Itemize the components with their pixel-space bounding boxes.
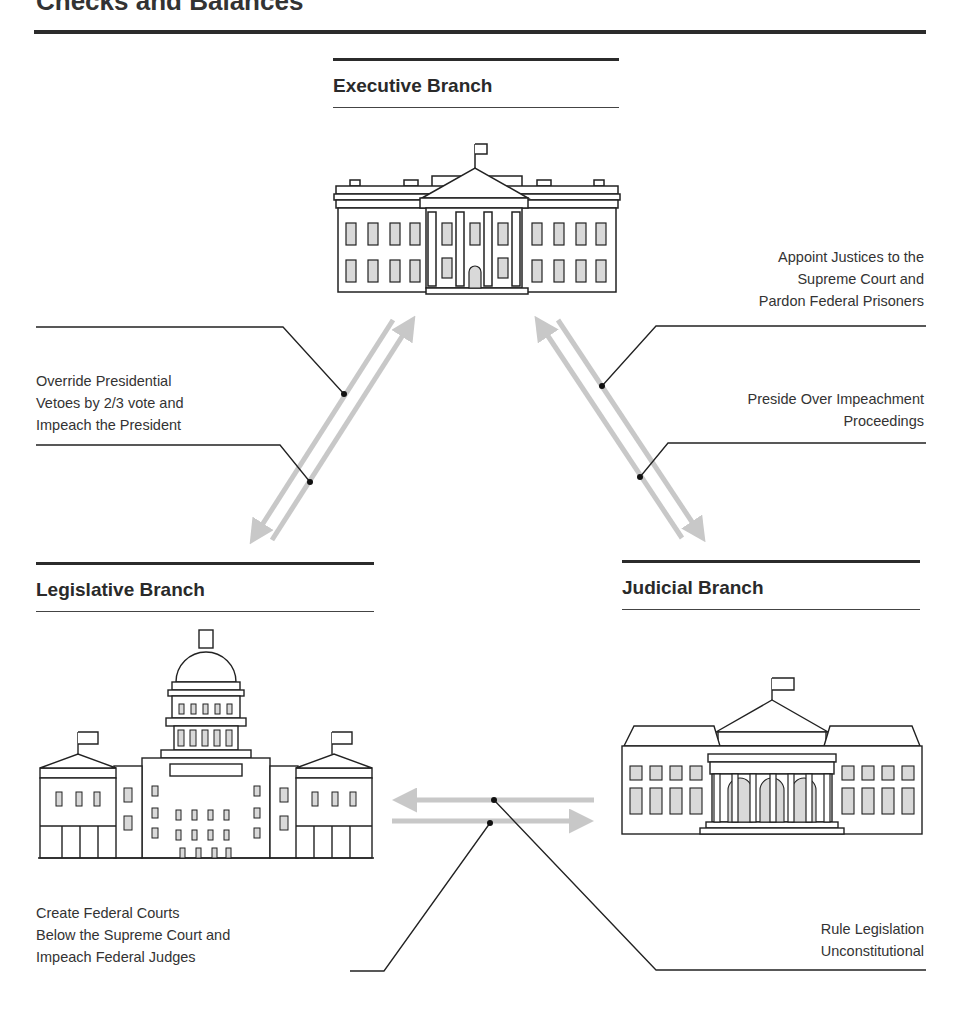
caption-line: Proceedings xyxy=(748,410,925,432)
caption-line: Pardon Federal Prisoners xyxy=(759,290,924,312)
caption-line: Preside Over Impeachment xyxy=(748,388,925,410)
caption-line: Impeach the President xyxy=(36,414,184,436)
arrow-exec-to-jud xyxy=(558,320,700,534)
arrow-exec-to-leg xyxy=(255,320,393,536)
checks-arrows xyxy=(0,0,960,1010)
caption-judicial-on-executive: Preside Over Impeachment Proceedings xyxy=(748,388,925,432)
arrow-leg-to-exec xyxy=(272,324,410,540)
caption-legislative-on-judicial: Create Federal Courts Below the Supreme … xyxy=(36,902,230,968)
caption-line: Impeach Federal Judges xyxy=(36,946,230,968)
caption-line: Create Federal Courts xyxy=(36,902,230,924)
caption-line: Supreme Court and xyxy=(759,268,924,290)
caption-judicial-on-legislative: Rule Legislation Unconstitutional xyxy=(821,918,924,962)
arrow-jud-to-exec xyxy=(540,324,682,538)
caption-line: Override Presidential xyxy=(36,370,184,392)
caption-line: Below the Supreme Court and xyxy=(36,924,230,946)
caption-line: Rule Legislation xyxy=(821,918,924,940)
caption-line: Unconstitutional xyxy=(821,940,924,962)
caption-line: Appoint Justices to the xyxy=(759,246,924,268)
caption-line: Vetoes by 2/3 vote and xyxy=(36,392,184,414)
caption-executive-on-judicial: Appoint Justices to the Supreme Court an… xyxy=(759,246,924,312)
caption-legislative-on-executive: Override Presidential Vetoes by 2/3 vote… xyxy=(36,370,184,436)
